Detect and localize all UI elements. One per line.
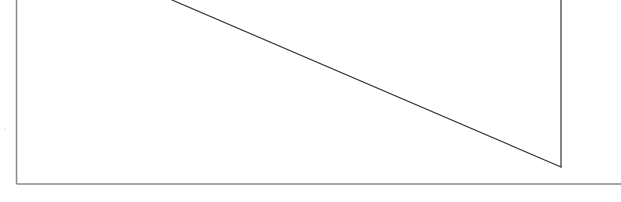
stray-mark (4, 128, 5, 129)
diagram-background (0, 0, 621, 202)
line-diagram (0, 0, 621, 202)
